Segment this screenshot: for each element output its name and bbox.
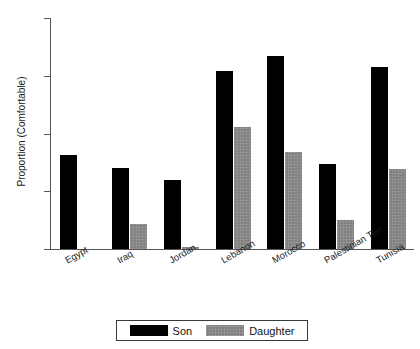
bar-daughter-iraq[interactable] [130, 224, 147, 249]
bar-daughter-morocco[interactable] [285, 152, 302, 249]
legend-swatch-son [130, 325, 168, 336]
y-axis-title: Proportion (Comfortable) [16, 37, 27, 227]
legend-label-son: Son [173, 325, 193, 337]
bar-daughter-lebanon[interactable] [234, 127, 251, 249]
plot-area [51, 18, 414, 249]
bar-group [362, 18, 414, 249]
bar-group [51, 18, 103, 249]
bar-group [258, 18, 310, 249]
legend-item-daughter[interactable]: Daughter [206, 325, 294, 337]
bar-daughter-tunisia[interactable] [389, 169, 406, 249]
bar-son-lebanon[interactable] [216, 71, 233, 249]
bar-group [103, 18, 155, 249]
x-label-iraq: Iraq [115, 248, 135, 266]
legend-swatch-daughter [206, 325, 244, 336]
bar-son-iraq[interactable] [112, 168, 129, 249]
bar-group [207, 18, 259, 249]
bar-son-morocco[interactable] [267, 56, 284, 249]
y-tick-0 [44, 249, 50, 250]
y-tick-4 [44, 18, 50, 19]
bar-son-palestinian-terr[interactable] [319, 164, 336, 249]
bar-son-jordan[interactable] [164, 180, 181, 249]
bar-son-egypt[interactable] [60, 155, 77, 249]
y-tick-2 [44, 134, 50, 135]
y-tick-1 [44, 191, 50, 192]
bar-group [155, 18, 207, 249]
y-tick-3 [44, 76, 50, 77]
legend-label-daughter: Daughter [249, 325, 294, 337]
bar-group [310, 18, 362, 249]
chart-legend: Son Daughter [116, 320, 308, 341]
bar-chart: Proportion (Comfortable) 0.1.2.3.4 Egypt… [0, 0, 420, 349]
legend-item-son[interactable]: Son [130, 325, 193, 337]
